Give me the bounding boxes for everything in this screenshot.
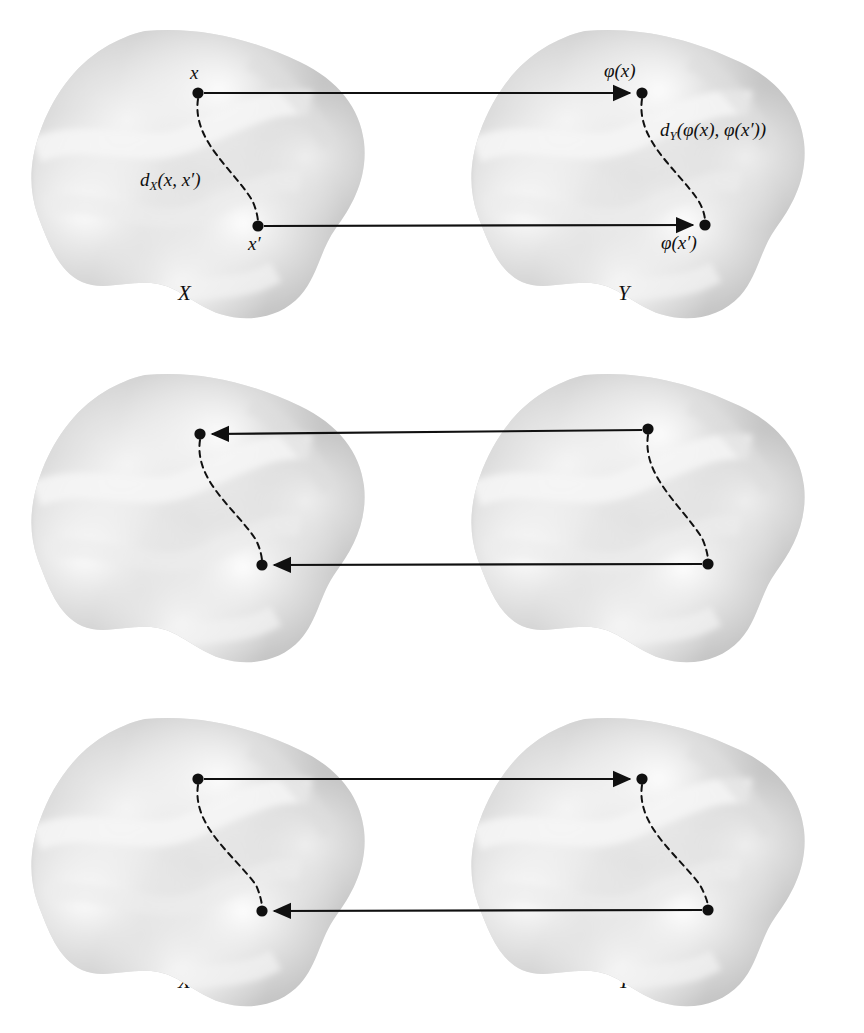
y-prime-point: [702, 558, 713, 569]
phi-x-prime-point: [699, 219, 710, 230]
panel-psi-isometry: ψ(y) ψ(y′) y y′ dX(ψ(y), ψ(y′)) dY(y, y′…: [0, 344, 864, 689]
x-prime-point-label: x′: [248, 234, 261, 253]
phi-x-point: [636, 87, 647, 98]
psi-y-point: [194, 428, 205, 439]
phi-x-prime-point-label: φ(x′): [661, 233, 697, 252]
blob-set-x: [30, 712, 374, 1014]
distance-dx-label: dX(x, x′): [140, 170, 201, 193]
x-prime-point: [252, 220, 263, 231]
y-point: [642, 423, 653, 434]
arrow-xprime-to-phixprime: [264, 225, 693, 226]
x-point: [192, 87, 203, 98]
panel-3-canvas: [0, 688, 864, 1033]
psi-y-prime-point: [256, 559, 267, 570]
metric-space-figure: x x′ φ(x) φ(x′) dX(x, x′) dY(φ(x), φ(x′)…: [0, 0, 864, 1033]
x-point-label: x: [190, 63, 198, 82]
set-label-y: Y: [618, 283, 630, 304]
psi-y-point: [256, 905, 267, 916]
panel-1-canvas: [0, 0, 864, 345]
set-label-x: X: [178, 283, 191, 304]
y-point: [702, 904, 713, 915]
panel-mixed-distortion: x ψ(y) φ(x) y dX(x, ψ(y)) dY(φ(x), y) X …: [0, 688, 864, 1033]
phi-x-point-label: φ(x): [604, 61, 636, 80]
panel-2-canvas: [0, 344, 864, 689]
distance-dy-label: dY(φ(x), φ(x′)): [660, 120, 766, 143]
arrow-y-to-psiy: [274, 910, 702, 911]
arrow-yprime-to-psiyprime: [274, 564, 702, 565]
x-point: [192, 773, 203, 784]
blob-set-y: [470, 24, 814, 326]
panel-phi-isometry: x x′ φ(x) φ(x′) dX(x, x′) dY(φ(x), φ(x′)…: [0, 0, 864, 345]
phi-x-point: [636, 773, 647, 784]
blob-set-x: [30, 24, 374, 326]
blob-set-y: [470, 712, 814, 1014]
blob-set-x: [30, 368, 374, 670]
blob-set-y: [470, 368, 814, 670]
